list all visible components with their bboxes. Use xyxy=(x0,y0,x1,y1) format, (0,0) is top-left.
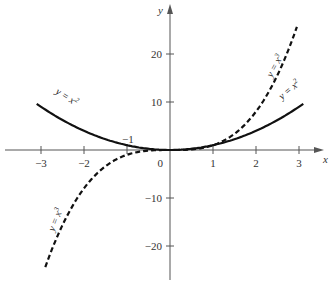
y-axis-label: y xyxy=(157,4,163,16)
origin-label: 0 xyxy=(158,157,164,169)
parabola-label-left: y = x2 xyxy=(53,84,81,108)
y-tick-label: −10 xyxy=(145,192,163,204)
x-tick-label: 2 xyxy=(253,157,259,169)
x-tick-label: 3 xyxy=(296,157,302,169)
y-tick-label: −20 xyxy=(145,240,163,252)
minus-one-annotation: −1 xyxy=(122,133,134,145)
cubic-label-lower: y = x3 xyxy=(44,205,65,233)
y-tick-label: 10 xyxy=(151,96,163,108)
axes: xy−3−21230−20−101020 xyxy=(5,4,328,280)
x-tick-label: 1 xyxy=(210,157,216,169)
y-axis-arrow-icon xyxy=(167,4,173,14)
x-axis-label: x xyxy=(322,153,328,165)
parabola-label-right: y = x2 xyxy=(275,77,302,103)
chart: xy−3−21230−20−101020 y = x2y = x2y = x3y… xyxy=(0,0,331,290)
x-tick-label: −3 xyxy=(35,157,47,169)
cubic-curve xyxy=(45,27,297,267)
x-tick-label: −2 xyxy=(78,157,90,169)
y-tick-label: 20 xyxy=(151,48,163,60)
labels: y = x2y = x2y = x3y = x3−1 xyxy=(44,52,302,234)
